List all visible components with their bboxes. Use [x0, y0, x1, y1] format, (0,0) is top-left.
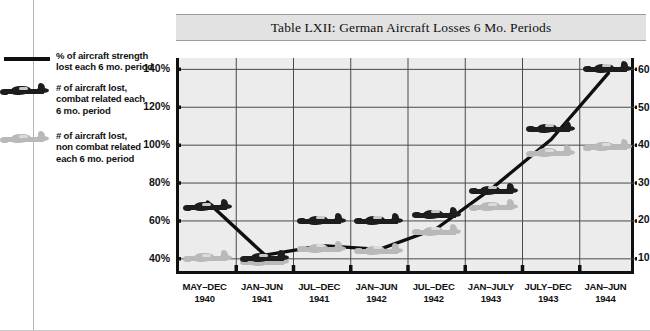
x-axis-tick-label: JUL–DEC1942: [398, 281, 470, 304]
page-title: Table LXII: German Aircraft Losses 6 Mo.…: [271, 20, 552, 36]
chart-title-bar: Table LXII: German Aircraft Losses 6 Mo.…: [176, 14, 646, 41]
marker-combat-loss-plane: [297, 212, 347, 229]
marker-noncombat-loss-plane: [412, 223, 462, 240]
marker-noncombat-loss-plane: [354, 242, 404, 259]
marker-combat-loss-plane: [469, 182, 519, 199]
marker-noncombat-loss-plane: [469, 198, 519, 215]
y-axis-left-tick-label: 80%: [124, 176, 170, 188]
y-axis-left-tick-label: 60%: [124, 214, 170, 226]
y-axis-left-tick-label: 40%: [124, 252, 170, 264]
y-axis-right-tick-label: 10: [638, 251, 650, 263]
x-axis-tick-label: JUL–DEC1941: [283, 281, 355, 304]
y-axis-right-tick-label: 20: [638, 213, 650, 225]
x-axis-tick-label: JAN–JUN1942: [340, 281, 412, 304]
marker-combat-loss-plane: [354, 212, 404, 229]
x-axis-tick-label: JAN–JUN1944: [569, 281, 641, 304]
marker-combat-loss-plane: [412, 206, 462, 223]
x-axis-tick-label: JULY–DEC1943: [512, 281, 584, 304]
marker-noncombat-loss-plane: [583, 138, 633, 155]
marker-combat-loss-plane: [583, 60, 633, 77]
legend-item-percent-strength: % of aircraft strength lost each 6 mo. p…: [0, 50, 153, 73]
marker-noncombat-loss-plane: [526, 144, 576, 161]
marker-noncombat-loss-plane: [297, 240, 347, 257]
y-axis-right-tick-label: 40: [638, 138, 650, 150]
chart-legend: % of aircraft strength lost each 6 mo. p…: [0, 48, 172, 168]
marker-noncombat-loss-plane: [183, 249, 233, 266]
y-axis-right-tick-label: 50: [638, 101, 650, 113]
y-axis-right-tick-label: 30: [638, 176, 650, 188]
chart-svg: [179, 58, 637, 274]
x-axis-tick-label: JAN–JULY1943: [455, 281, 527, 304]
dark-plane-icon: [0, 82, 52, 100]
marker-combat-loss-plane: [526, 120, 576, 137]
chart-plot-frame: [176, 58, 634, 274]
light-plane-icon: [0, 130, 52, 148]
chart-plot-area: [179, 58, 637, 274]
line-swatch-icon: [0, 50, 52, 68]
legend-label-percent-strength: % of aircraft strength lost each 6 mo. p…: [56, 50, 153, 73]
legend-item-noncombat-losses: # of aircraft lost, non combat related e…: [0, 130, 141, 164]
marker-combat-loss-plane: [240, 249, 290, 266]
legend-label-noncombat-losses: # of aircraft lost, non combat related e…: [56, 130, 141, 164]
y-axis-right-tick-label: 60: [638, 63, 650, 75]
legend-label-combat-losses: # of aircraft lost, combat related each …: [56, 82, 145, 116]
x-axis-tick-label: MAY–DEC1940: [169, 281, 241, 304]
legend-item-combat-losses: # of aircraft lost, combat related each …: [0, 82, 145, 116]
marker-combat-loss-plane: [183, 198, 233, 215]
x-axis-tick-label: JAN–JUN1941: [226, 281, 298, 304]
